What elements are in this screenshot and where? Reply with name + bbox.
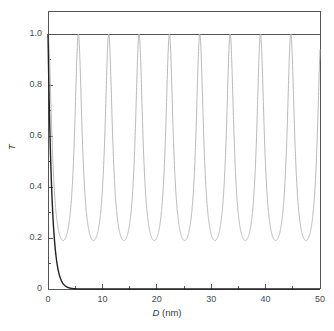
chart-figure: T D (nm) 00.20.40.60.81.0 01020304050 (0, 0, 334, 331)
y-tick-label: 1.0 (14, 28, 42, 38)
y-tick-label: 0 (14, 283, 42, 293)
x-tick-label: 20 (143, 294, 171, 304)
x-tick-label: 40 (252, 294, 280, 304)
y-tick-label: 0.2 (14, 232, 42, 242)
y-axis-title: T (6, 144, 17, 150)
y-tick-label: 0.4 (14, 181, 42, 191)
data-series (48, 34, 320, 289)
x-axis-title: D (nm) (0, 307, 334, 318)
chart-canvas (0, 0, 334, 331)
y-tick-label: 0.6 (14, 130, 42, 140)
y-tick-label: 0.8 (14, 79, 42, 89)
axes-frame (48, 11, 320, 289)
x-tick-label: 10 (88, 294, 116, 304)
x-tick-label: 0 (34, 294, 62, 304)
x-axis-title-unit: (nm) (162, 307, 182, 318)
x-tick-label: 50 (306, 294, 334, 304)
axis-ticks (48, 34, 320, 289)
x-tick-label: 30 (197, 294, 225, 304)
